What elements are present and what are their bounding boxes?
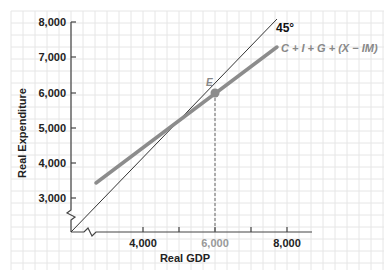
chart: 8,000 7,000 6,000 5,000 4,000 3,000 4,00… [0, 0, 386, 278]
y-tick-labels: 8,000 7,000 6,000 5,000 4,000 3,000 [38, 16, 66, 204]
x-tick-labels: 4,000 6,000 8,000 [129, 237, 301, 249]
equilibrium-point [211, 89, 220, 98]
x-tick-8000: 8,000 [273, 237, 301, 249]
y-tick-5000: 5,000 [38, 122, 66, 134]
y-axis-title: Real Expenditure [16, 88, 28, 178]
aggregate-expenditure-label: C + I + G + (X − IM) [281, 42, 378, 54]
y-axis [67, 22, 75, 232]
line-45-label: 45° [276, 21, 294, 35]
x-axis-title: Real GDP [160, 252, 210, 264]
y-tick-4000: 4,000 [38, 157, 66, 169]
y-tick-6000: 6,000 [38, 87, 66, 99]
equilibrium-label: E [206, 77, 213, 88]
y-tick-3000: 3,000 [38, 192, 66, 204]
aggregate-expenditure-line [96, 47, 277, 183]
y-tick-8000: 8,000 [38, 16, 66, 28]
x-tick-6000: 6,000 [201, 237, 229, 249]
x-tick-4000: 4,000 [129, 237, 157, 249]
y-tick-7000: 7,000 [38, 51, 66, 63]
